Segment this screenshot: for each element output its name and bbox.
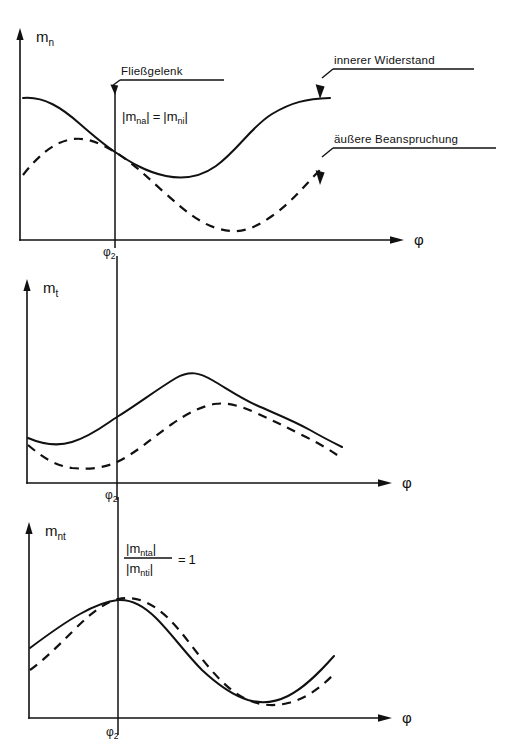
annotation-fliessgelenk-label: Fließgelenk bbox=[121, 65, 183, 77]
annotation-fliessgelenk: Fließgelenk bbox=[110, 65, 224, 95]
panel-mnt-y-label: mnt bbox=[45, 522, 66, 542]
panel-mt-y-label: mt bbox=[43, 279, 59, 299]
panel-mnt-y-axis bbox=[25, 522, 32, 718]
formula-mnti-denominator: |mnti| bbox=[126, 561, 153, 578]
formula-mna-equals-mni-text: |mna|=|mni| bbox=[122, 109, 188, 126]
formula-mna-equals-mni: |mna|=|mni| bbox=[122, 109, 188, 126]
formula-mnta-numerator: |mnta| bbox=[126, 541, 156, 558]
panel-mn-curve-aeussere-beanspruchung bbox=[23, 139, 320, 231]
panel-mnt-curve-innerer-widerstand bbox=[30, 600, 334, 702]
annotation-innerer-widerstand-leader bbox=[322, 69, 333, 78]
panel-mnt: mnt φ φ2 |mnta| |mnti| =1 bbox=[25, 497, 412, 741]
annotation-aeussere-beanspruchung-leader bbox=[322, 148, 333, 157]
panel-mnt-curve-aeussere-beanspruchung bbox=[30, 598, 332, 705]
technical-figure: mn φ φ2 Fließgelenk |mna|=|mni| innerer … bbox=[0, 0, 508, 745]
panel-mt-y-axis bbox=[23, 279, 30, 483]
panel-mn-x-axis bbox=[20, 236, 404, 244]
annotation-aeussere-beanspruchung-arrowhead bbox=[316, 170, 325, 185]
panel-mnt-x-axis bbox=[29, 714, 392, 722]
panel-mn: mn φ φ2 Fließgelenk |mna|=|mni| innerer … bbox=[16, 28, 496, 261]
annotation-aeussere-beanspruchung-label: äußere Beanspruchung bbox=[334, 133, 458, 145]
panel-mn-phi2-label: φ2 bbox=[103, 245, 116, 261]
formula-equals-one: =1 bbox=[178, 552, 196, 567]
panel-mt-phi2-label: φ2 bbox=[105, 488, 118, 504]
panel-mt-curve-aeussere-beanspruchung bbox=[28, 403, 340, 468]
panel-mt: mt φ φ2 bbox=[23, 256, 412, 504]
panel-mn-x-label: φ bbox=[414, 231, 424, 248]
panel-mnt-phi2-label: φ2 bbox=[106, 725, 119, 741]
panel-mt-x-axis bbox=[27, 479, 392, 487]
annotation-aeussere-beanspruchung: äußere Beanspruchung bbox=[316, 133, 496, 185]
panel-mnt-x-label: φ bbox=[402, 709, 412, 726]
panel-mn-y-label: mn bbox=[36, 28, 54, 48]
annotation-innerer-widerstand-label: innerer Widerstand bbox=[334, 54, 435, 66]
annotation-innerer-widerstand-arrowhead bbox=[316, 84, 325, 99]
formula-mnta-over-mnti: |mnta| |mnti| =1 bbox=[124, 541, 196, 578]
panel-mt-curve-innerer-widerstand bbox=[28, 373, 342, 447]
panel-mt-x-label: φ bbox=[402, 474, 412, 491]
panel-mn-y-axis bbox=[16, 28, 23, 240]
annotation-innerer-widerstand: innerer Widerstand bbox=[316, 54, 474, 99]
